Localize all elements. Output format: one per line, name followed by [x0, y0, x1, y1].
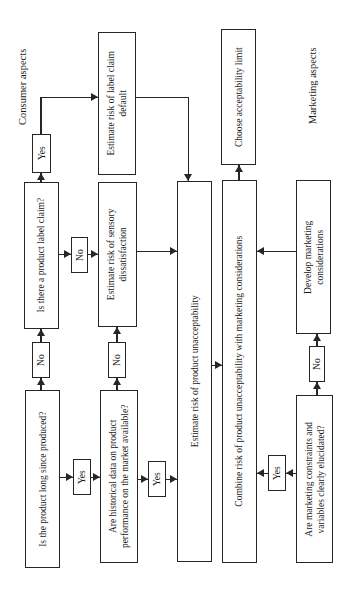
arrow-right-icon: [170, 247, 177, 255]
connector-yes-labeldefault-vline: [40, 97, 42, 135]
node-yes-historical: Yes: [148, 461, 166, 497]
node-q-historical: Are historical data on product performan…: [100, 390, 138, 563]
arrow-up-icon: [37, 173, 45, 180]
marketing-aspects-text: Marketing aspects: [305, 48, 319, 125]
connector-yes-labeldefault-hline: [40, 97, 98, 99]
node-q-historical-label: Are historical data on product performan…: [107, 392, 132, 561]
arrow-right-icon: [91, 250, 98, 258]
arrow-left-icon: [257, 469, 264, 477]
arrow-up-icon: [37, 378, 45, 385]
node-develop-label: Develop marketing considerations: [301, 184, 326, 330]
node-q-claim-label: Is there a product label claim?: [35, 198, 47, 313]
arrow-up-icon: [37, 329, 45, 336]
connector-labeldefault-unacceptability-vline: [188, 97, 190, 182]
connector-labeldefault-unacceptability-hline: [136, 97, 189, 99]
arrow-up-icon: [113, 327, 121, 334]
node-yes-produced-label: Yes: [76, 470, 88, 484]
node-no-marketing-label: No: [311, 358, 323, 370]
node-q-claim: Is there a product label claim?: [24, 182, 59, 329]
arrow-right-icon: [93, 473, 100, 481]
consumer-aspects-text: Consumer aspects: [16, 49, 30, 125]
node-q-produced-label: Is the product long since produced?: [36, 411, 48, 546]
node-choose-label: Choose acceptability limit: [232, 47, 244, 147]
node-no-claim: No: [71, 237, 88, 273]
arrow-up-icon: [313, 334, 321, 341]
arrow-up-icon: [235, 165, 243, 172]
arrow-left-icon: [286, 469, 293, 477]
node-yes-claim: Yes: [32, 134, 51, 173]
node-est-label-default: Estimate risk of label claim default: [98, 32, 136, 175]
node-est-unacceptability-label: Estimate risk of product unacceptability: [188, 296, 200, 448]
node-yes-claim-label: Yes: [35, 147, 47, 161]
arrow-right-icon: [170, 475, 177, 483]
node-no-claim-label: No: [73, 249, 85, 261]
arrow-down-icon: [184, 174, 192, 181]
arrow-right-icon: [64, 250, 71, 258]
node-yes-marketing: Yes: [268, 455, 286, 491]
arrow-left-icon: [257, 247, 264, 255]
node-no-produced-label: No: [35, 354, 47, 366]
node-no-historical: No: [108, 342, 126, 378]
node-est-unacceptability: Estimate risk of product unacceptability: [177, 181, 212, 562]
node-yes-historical-label: Yes: [151, 472, 163, 486]
node-yes-produced: Yes: [73, 459, 91, 495]
node-est-sensory: Estimate risk of sensory dissatisfaction: [98, 182, 137, 327]
node-combine: Combine risk of product unacceptability …: [222, 180, 257, 563]
marketing-aspects-label: Marketing aspects: [294, 40, 330, 132]
flowchart-canvas: Consumer aspects Marketing aspects Is th…: [0, 0, 352, 610]
arrow-up-icon: [313, 382, 321, 389]
arrow-right-icon: [141, 475, 148, 483]
node-est-label-default-label: Estimate risk of label claim default: [105, 36, 130, 171]
arrow-right-icon: [66, 473, 73, 481]
arrow-right-icon: [215, 361, 222, 369]
node-q-produced: Is the product long since produced?: [25, 390, 60, 568]
node-no-produced: No: [32, 342, 50, 378]
node-yes-marketing-label: Yes: [271, 466, 283, 480]
node-choose: Choose acceptability limit: [221, 29, 256, 165]
node-est-sensory-label: Estimate risk of sensory dissatisfaction: [105, 186, 130, 323]
arrow-up-icon: [113, 378, 121, 385]
node-q-marketing: Are marketing constraints and variables …: [296, 395, 333, 563]
arrow-right-icon: [91, 93, 98, 101]
node-no-marketing: No: [309, 346, 325, 382]
node-q-marketing-label: Are marketing constraints and variables …: [302, 399, 327, 559]
node-develop: Develop marketing considerations: [296, 180, 331, 334]
node-combine-label: Combine risk of product unacceptability …: [233, 236, 245, 507]
consumer-aspects-label: Consumer aspects: [5, 40, 41, 134]
node-no-historical-label: No: [111, 354, 123, 366]
